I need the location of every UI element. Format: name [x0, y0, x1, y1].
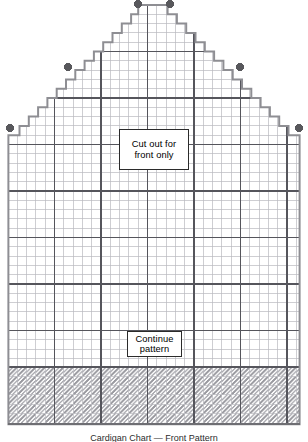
placement-dot — [166, 0, 174, 8]
placement-dot — [64, 63, 72, 71]
cutout-note-box: Cut out for front only — [119, 129, 189, 170]
chart-caption: Cardigan Chart — Front Pattern — [0, 434, 308, 442]
placement-dot — [295, 124, 303, 132]
cutout-note-line-1: Cut out for — [132, 139, 177, 149]
placement-dot — [134, 0, 142, 8]
knitting-chart: Cut out for front only Continue pattern … — [0, 0, 308, 442]
continue-note-box: Continue pattern — [127, 331, 182, 357]
placement-dot — [6, 124, 14, 132]
continue-note-line-1: Continue — [135, 334, 173, 344]
chart-canvas — [0, 0, 308, 442]
continue-note-line-2: pattern — [140, 344, 170, 354]
ribbing-band — [8, 367, 299, 424]
cutout-note-line-2: front only — [134, 150, 173, 160]
placement-dot — [236, 63, 244, 71]
